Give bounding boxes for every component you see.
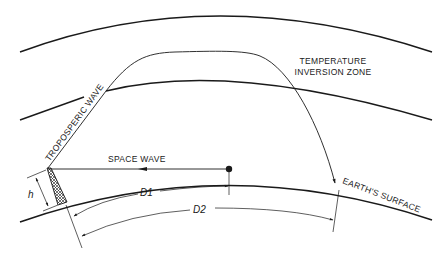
propagation-diagram: h D1 D2 TEMPERATURE INVERSION ZONE TROPO… bbox=[0, 0, 446, 259]
d2-dimension-left bbox=[82, 210, 190, 236]
d2-label: D2 bbox=[193, 204, 206, 215]
earths-surface-label: EARTH'S SURFACE bbox=[341, 176, 422, 215]
temperature-inversion-label-line2: INVERSION ZONE bbox=[295, 67, 372, 77]
receiver-point bbox=[226, 166, 232, 172]
tropospheric-wave-path bbox=[48, 51, 335, 183]
space-wave-arrowhead bbox=[138, 167, 147, 171]
outer-atmosphere-arc bbox=[20, 16, 432, 52]
temperature-inversion-label-line1: TEMPERATURE bbox=[300, 56, 367, 66]
inversion-layer-arc bbox=[106, 80, 432, 120]
space-wave-label: SPACE WAVE bbox=[108, 154, 166, 164]
d2-extension-line bbox=[333, 190, 339, 232]
antenna-tower-icon bbox=[47, 168, 67, 205]
height-label: h bbox=[28, 189, 34, 200]
d1-label: D1 bbox=[140, 187, 153, 198]
origin-extension-line bbox=[66, 205, 82, 248]
tropospheric-wave-label: TROPOSPERIC WAVE bbox=[43, 82, 106, 163]
d2-dimension-right bbox=[215, 208, 333, 220]
